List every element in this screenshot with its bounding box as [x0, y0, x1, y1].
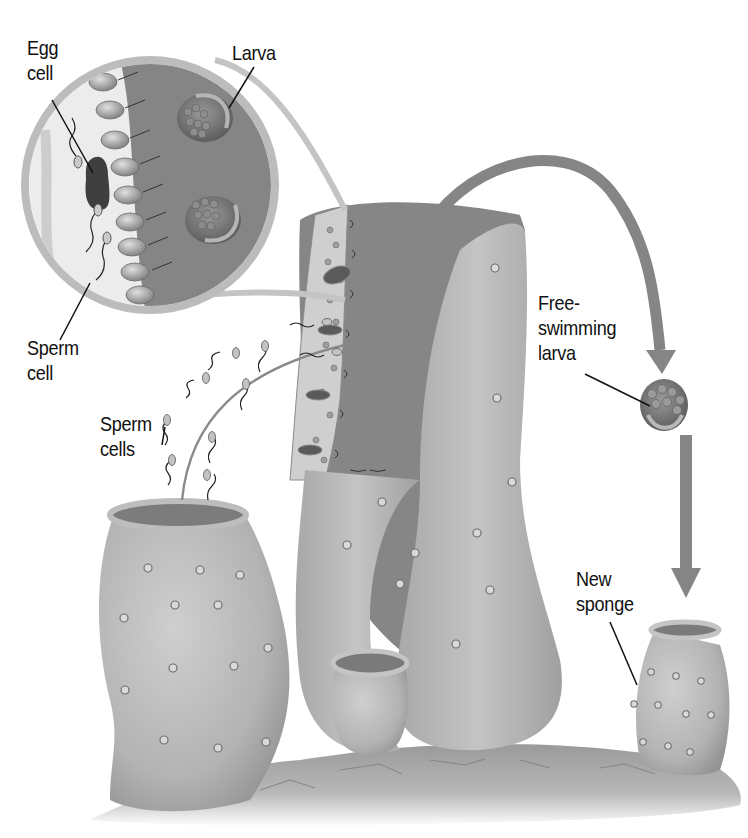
label-new-sponge: New sponge: [576, 566, 634, 616]
label-egg-cell: Egg cell: [27, 35, 58, 85]
label-free-swimming-larva: Free- swimming larva: [538, 290, 616, 365]
new-sponge-illustration: [631, 622, 730, 775]
larva-inset-2: [185, 196, 241, 244]
left-sponge: [99, 501, 289, 811]
label-larva: Larva: [232, 40, 276, 65]
adult-sponge-cross-section: [290, 202, 562, 752]
small-bud-sponge: [332, 651, 409, 755]
label-sperm-cells: Sperm cells: [100, 411, 152, 461]
larva-inset-1: [177, 94, 233, 142]
magnified-inset: [25, 60, 345, 310]
label-sperm-cell: Sperm cell: [27, 335, 79, 385]
